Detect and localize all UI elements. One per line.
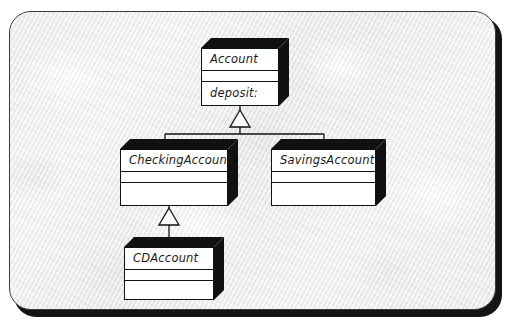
class-box-face: CDAccount [124, 247, 214, 300]
class-operations-compartment [272, 183, 375, 205]
class-name-compartment: SavingsAccount [272, 150, 375, 172]
uml-diagram: Account deposit: CheckingAccount [0, 0, 511, 327]
class-name-label: Account [210, 54, 258, 66]
class-name-label: CheckingAccount [129, 155, 232, 167]
uml-class-cdaccount[interactable]: CDAccount [124, 237, 224, 300]
class-attributes-compartment [121, 172, 227, 183]
uml-class-account[interactable]: Account deposit: [201, 38, 289, 106]
class-operation-label: deposit: [210, 88, 258, 100]
class-name-compartment: CDAccount [125, 248, 213, 270]
uml-class-checkingaccount[interactable]: CheckingAccount [120, 139, 238, 206]
class-name-compartment: CheckingAccount [121, 150, 227, 172]
class-attributes-compartment [202, 71, 278, 82]
class-box-face: Account deposit: [201, 48, 279, 106]
uml-class-savingsaccount[interactable]: SavingsAccount [271, 139, 386, 206]
class-name-label: CDAccount [133, 253, 198, 265]
class-box-face: SavingsAccount [271, 149, 376, 206]
class-operations-compartment [121, 183, 227, 205]
class-attributes-compartment [125, 270, 213, 281]
class-operations-compartment [125, 281, 213, 299]
class-box-face: CheckingAccount [120, 149, 228, 206]
class-name-label: SavingsAccount [280, 155, 374, 167]
class-attributes-compartment [272, 172, 375, 183]
class-operations-compartment: deposit: [202, 82, 278, 105]
diagram-canvas: Account deposit: CheckingAccount [0, 0, 511, 327]
class-name-compartment: Account [202, 49, 278, 71]
